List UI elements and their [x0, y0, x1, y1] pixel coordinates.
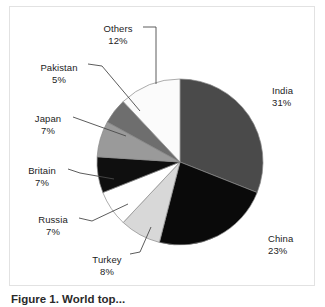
pie-label-britain-name: Britain [18, 165, 66, 177]
pie-label-others-value: 12% [95, 35, 141, 47]
pie-label-pakistan: Pakistan 5% [32, 62, 86, 85]
pie-label-japan-name: Japan [26, 113, 70, 125]
pie-label-russia: Russia 7% [30, 214, 76, 237]
pie-label-others: Others 12% [95, 23, 141, 46]
pie-label-china: China 23% [268, 233, 293, 256]
figure-frame: India 31% China 23% Turkey 8% Russia 7% … [9, 6, 315, 286]
pie-label-russia-value: 7% [30, 226, 76, 238]
pie-label-japan: Japan 7% [26, 113, 70, 136]
pie-label-pakistan-name: Pakistan [32, 62, 86, 74]
pie-label-russia-name: Russia [30, 214, 76, 226]
figure-caption: Figure 1. World top... [11, 293, 321, 306]
pie-label-others-name: Others [95, 23, 141, 35]
pie-label-india-value: 31% [272, 97, 293, 109]
pie-label-britain-value: 7% [18, 177, 66, 189]
pie-label-turkey-value: 8% [84, 266, 130, 278]
pie-chart: India 31% China 23% Turkey 8% Russia 7% … [10, 7, 314, 285]
pie-label-turkey-name: Turkey [84, 254, 130, 266]
pie-label-pakistan-value: 5% [32, 74, 86, 86]
pie-label-india-name: India [272, 85, 293, 97]
pie-label-china-name: China [268, 233, 293, 245]
pie-label-turkey: Turkey 8% [84, 254, 130, 277]
pie-slices [97, 79, 263, 245]
pie-label-india: India 31% [272, 85, 293, 108]
leader-line-others [143, 27, 156, 84]
pie-label-japan-value: 7% [26, 125, 70, 137]
pie-label-britain: Britain 7% [18, 165, 66, 188]
pie-label-china-value: 23% [268, 245, 293, 257]
